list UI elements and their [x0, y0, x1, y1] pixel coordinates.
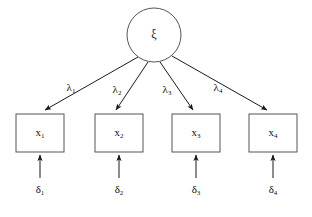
loading-arrow	[172, 56, 267, 110]
diagram-canvas: ξ λ1λ2λ3λ4 x1x2x3x4 δ1δ2δ3δ4	[0, 0, 312, 217]
loading-label: λ1	[67, 81, 76, 95]
indicator-boxes-group	[16, 114, 297, 152]
loading-label: λ2	[113, 83, 122, 97]
error-label: δ1	[36, 183, 45, 197]
error-paths-group	[40, 155, 273, 178]
latent-factor-label: ξ	[151, 27, 157, 41]
loading-labels-group: λ1λ2λ3λ4	[67, 81, 223, 97]
loading-label: λ3	[163, 83, 172, 97]
error-label: δ3	[192, 183, 201, 197]
error-label: δ2	[115, 183, 124, 197]
sem-path-diagram: ξ λ1λ2λ3λ4 x1x2x3x4 δ1δ2δ3δ4	[0, 0, 312, 217]
loading-arrow	[45, 57, 138, 110]
loading-label: λ4	[214, 81, 223, 95]
indicator-labels-group: x1x2x3x4	[36, 126, 279, 140]
error-label: δ4	[269, 183, 278, 197]
error-labels-group: δ1δ2δ3δ4	[36, 183, 278, 197]
loading-arrow	[116, 62, 148, 110]
loading-paths-group	[45, 56, 267, 110]
